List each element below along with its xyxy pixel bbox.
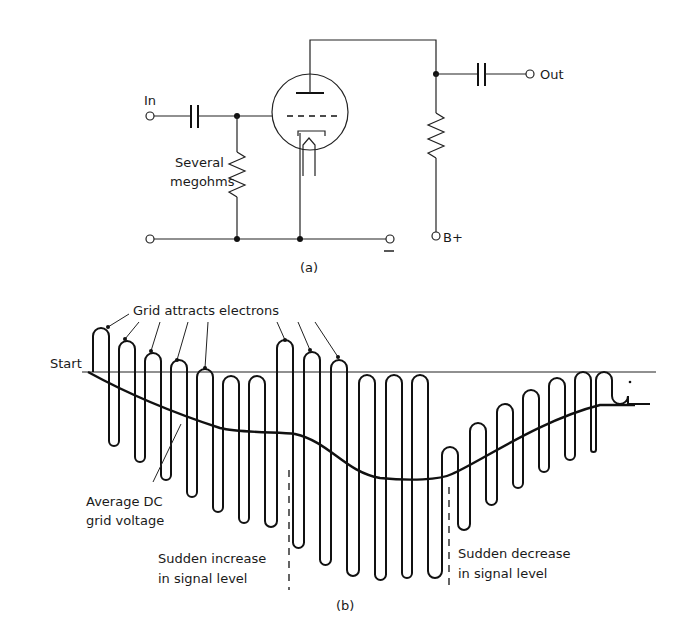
start-label: Start — [50, 356, 82, 371]
stray-dot — [629, 381, 632, 384]
triode-tube-icon — [272, 74, 348, 176]
grid-resistor-label-2: megohms — [170, 174, 235, 189]
ground-terminal-left — [146, 235, 154, 243]
sudden-decrease-label-1: Sudden decrease — [458, 546, 571, 561]
caption-b: (b) — [336, 598, 354, 613]
grid-attracts-label: Grid attracts electrons — [133, 303, 279, 318]
output-terminal — [526, 70, 534, 78]
supply-terminal — [432, 232, 440, 240]
waveform-plot: Start Grid attracts electrons Average DC — [50, 303, 656, 613]
avg-dc-pointer — [153, 424, 181, 482]
supply-label: B+ — [443, 230, 463, 245]
sudden-decrease-label-2: in signal level — [458, 566, 547, 581]
avg-dc-label-1: Average DC — [86, 494, 163, 509]
output-label: Out — [540, 67, 564, 82]
caption-a: (a) — [300, 260, 318, 275]
circuit-schematic: Several megohms Out — [144, 40, 564, 275]
grid-resistor-label-1: Several — [175, 155, 224, 170]
diagram-canvas: Several megohms Out — [0, 0, 692, 639]
input-terminal — [146, 112, 154, 120]
sudden-increase-label-1: Sudden increase — [158, 551, 266, 566]
ground-terminal-right — [386, 235, 394, 243]
output-capacitor-icon — [478, 63, 485, 86]
sudden-increase-label-2: in signal level — [158, 571, 247, 586]
input-capacitor-icon — [191, 105, 198, 128]
plate-resistor-icon — [428, 113, 444, 158]
input-label: In — [144, 93, 156, 108]
avg-dc-label-2: grid voltage — [86, 513, 164, 528]
grid-signal-waveform — [93, 328, 650, 580]
